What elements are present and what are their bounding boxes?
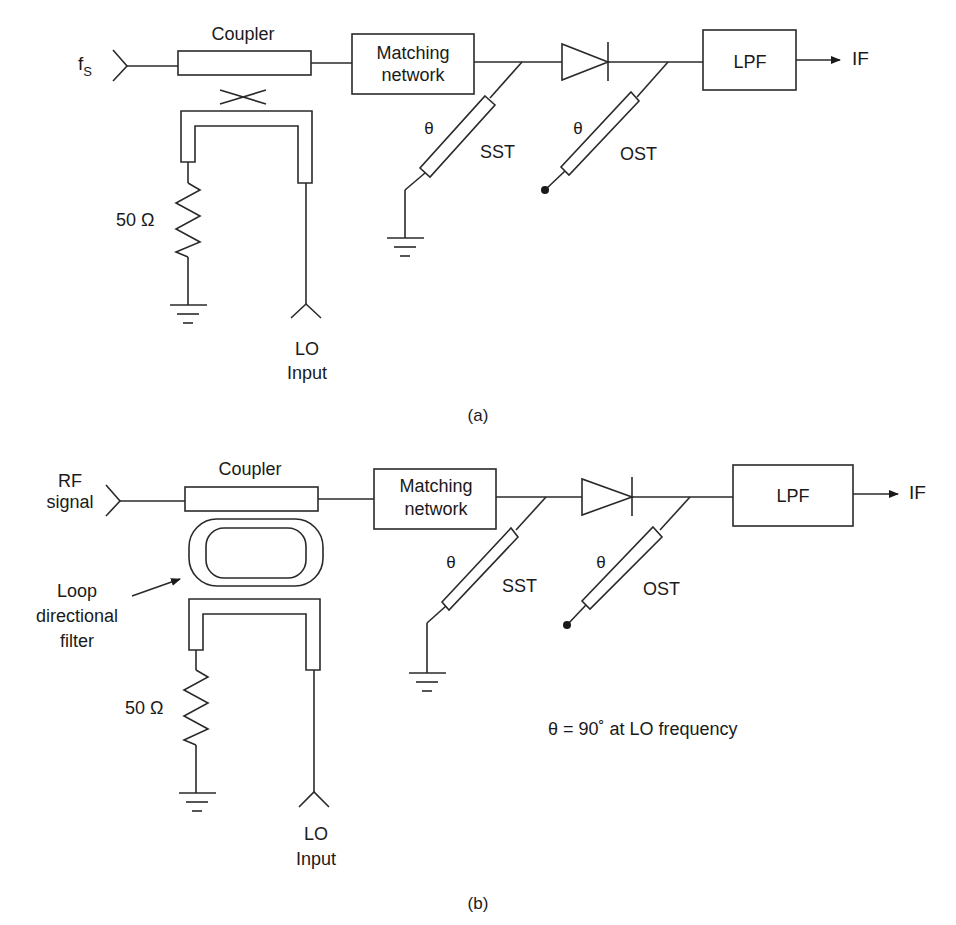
coupled-u-line — [181, 111, 312, 183]
resistor-50-ohm — [184, 650, 208, 793]
loop-label-2: directional — [36, 606, 118, 626]
sst-label: SST — [480, 142, 515, 162]
lo-input-port-icon — [299, 792, 329, 807]
figure-a: fS Coupler 50 Ω LO Input — [78, 24, 869, 425]
matching-network-label-1: Matching — [399, 476, 472, 496]
ground-icon — [170, 305, 207, 323]
ground-icon — [387, 238, 424, 256]
matching-network-label-1: Matching — [376, 43, 449, 63]
ost-label: OST — [643, 579, 680, 599]
output-if-label: IF — [909, 482, 926, 503]
coupled-u-line — [189, 599, 320, 670]
resistor-50-ohm — [176, 162, 200, 305]
theta-note: θ = 90˚ at LO frequency — [548, 719, 738, 739]
ground-icon — [179, 793, 216, 811]
input-port-icon — [106, 485, 120, 516]
input-label-fs: fS — [78, 53, 92, 79]
matching-network-label-2: network — [381, 65, 445, 85]
lpf-label: LPF — [776, 486, 809, 506]
diode-icon — [582, 477, 632, 516]
lpf-label: LPF — [733, 52, 766, 72]
ost-label: OST — [620, 144, 657, 164]
lo-label-line2: Input — [296, 849, 336, 869]
caption-b: (b) — [468, 894, 489, 913]
figure-b: RF signal Coupler Loop directional filte… — [36, 459, 926, 913]
ost-stub — [541, 62, 668, 194]
loop-label-3: filter — [60, 631, 94, 651]
input-port-icon — [113, 50, 127, 81]
rf-signal-label-2: signal — [46, 492, 93, 512]
pointer-arrow-icon — [132, 579, 180, 596]
rf-signal-label-1: RF — [58, 471, 82, 491]
loop-directional-filter — [189, 519, 323, 586]
lo-input-port-icon — [291, 304, 321, 318]
open-end-dot — [563, 621, 571, 629]
ost-theta-label: θ — [573, 119, 582, 138]
diode-icon — [562, 42, 608, 81]
coupler-label: Coupler — [218, 459, 281, 479]
sst-theta-label: θ — [424, 119, 433, 138]
matching-network-label-2: network — [404, 499, 468, 519]
coupling-cross-icon — [220, 90, 266, 104]
coupler-line — [185, 487, 318, 511]
lo-label-line1: LO — [295, 339, 319, 359]
caption-a: (a) — [468, 406, 489, 425]
lo-label-line2: Input — [287, 363, 327, 383]
loop-label-1: Loop — [57, 581, 97, 601]
resistor-label: 50 Ω — [125, 698, 163, 718]
coupler-line — [178, 51, 311, 75]
coupler-label: Coupler — [211, 24, 274, 44]
ost-stub — [563, 497, 690, 629]
sst-theta-label: θ — [446, 553, 455, 572]
ost-theta-label: θ — [596, 553, 605, 572]
ground-icon — [409, 673, 446, 691]
output-if-label: IF — [852, 48, 869, 69]
sst-label: SST — [502, 576, 537, 596]
resistor-label: 50 Ω — [116, 210, 154, 230]
open-end-dot — [541, 186, 549, 194]
lo-label-line1: LO — [304, 824, 328, 844]
